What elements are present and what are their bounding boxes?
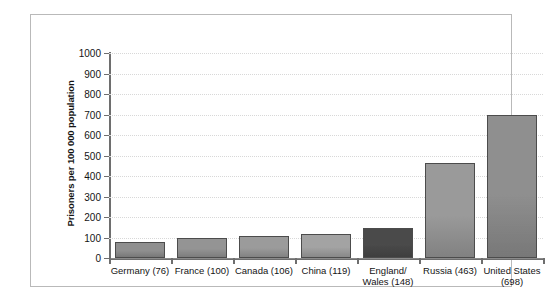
x-axis-tick-label-line: United States bbox=[481, 265, 543, 276]
chart-figure-frame: Prisoners per 100 000 population 0100200… bbox=[30, 14, 512, 287]
x-axis-tick-label-line: Canada (106) bbox=[233, 265, 295, 276]
x-axis-tick-label: Germany (76) bbox=[109, 265, 171, 276]
gridline bbox=[109, 115, 543, 116]
gridline bbox=[109, 217, 543, 218]
bar bbox=[363, 228, 413, 258]
gridline bbox=[109, 135, 543, 136]
bar bbox=[177, 238, 227, 259]
x-axis-tick-label-line: Germany (76) bbox=[109, 265, 171, 276]
x-axis-tick-label-line: England/ bbox=[357, 265, 419, 276]
y-axis-tick-label: 1000 bbox=[79, 48, 101, 59]
y-axis-tick-label: 500 bbox=[84, 150, 101, 161]
y-axis-tick-label: 0 bbox=[95, 253, 101, 264]
x-axis-tick-label-line: China (119) bbox=[295, 265, 357, 276]
x-axis-tick-label: France (100) bbox=[171, 265, 233, 276]
x-axis-tick-label-line: (698) bbox=[481, 276, 543, 287]
y-axis-tick-label: 400 bbox=[84, 171, 101, 182]
bar bbox=[487, 115, 537, 258]
x-axis-tick-label-line: France (100) bbox=[171, 265, 233, 276]
x-axis-tick-label: England/Wales (148) bbox=[357, 265, 419, 287]
plot-area bbox=[109, 53, 543, 258]
x-axis-tick bbox=[357, 258, 359, 264]
x-axis-tick-label-line: Wales (148) bbox=[357, 276, 419, 287]
bar bbox=[425, 163, 475, 258]
bar bbox=[301, 234, 351, 258]
gridline bbox=[109, 74, 543, 75]
y-axis-tick-label: 200 bbox=[84, 212, 101, 223]
bar bbox=[115, 242, 165, 258]
gridline bbox=[109, 94, 543, 95]
x-axis-tick bbox=[481, 258, 483, 264]
x-axis-tick bbox=[419, 258, 421, 264]
y-axis-tick-label: 900 bbox=[84, 68, 101, 79]
x-axis-tick-label: United States(698) bbox=[481, 265, 543, 287]
y-axis-title: Prisoners per 100 000 population bbox=[61, 43, 79, 263]
x-axis-tick bbox=[171, 258, 173, 264]
x-axis-tick-label-line: Russia (463) bbox=[419, 265, 481, 276]
x-axis-tick bbox=[233, 258, 235, 264]
y-axis-tick-label: 600 bbox=[84, 130, 101, 141]
bar bbox=[239, 236, 289, 258]
plot-inner bbox=[109, 53, 543, 258]
x-axis-tick bbox=[543, 258, 545, 264]
x-axis-tick-label: Russia (463) bbox=[419, 265, 481, 276]
gridline bbox=[109, 156, 543, 157]
x-axis-tick bbox=[109, 258, 111, 264]
x-axis-tick bbox=[295, 258, 297, 264]
gridline bbox=[109, 53, 543, 54]
x-axis-tick-label: Canada (106) bbox=[233, 265, 295, 276]
x-axis-tick-label: China (119) bbox=[295, 265, 357, 276]
y-axis-tick-label: 700 bbox=[84, 109, 101, 120]
gridline bbox=[109, 258, 543, 259]
gridline bbox=[109, 197, 543, 198]
y-axis-tick-label: 100 bbox=[84, 232, 101, 243]
gridline bbox=[109, 176, 543, 177]
y-axis-title-text: Prisoners per 100 000 population bbox=[65, 80, 76, 226]
y-axis-tick-label: 800 bbox=[84, 89, 101, 100]
y-axis-tick-label: 300 bbox=[84, 191, 101, 202]
